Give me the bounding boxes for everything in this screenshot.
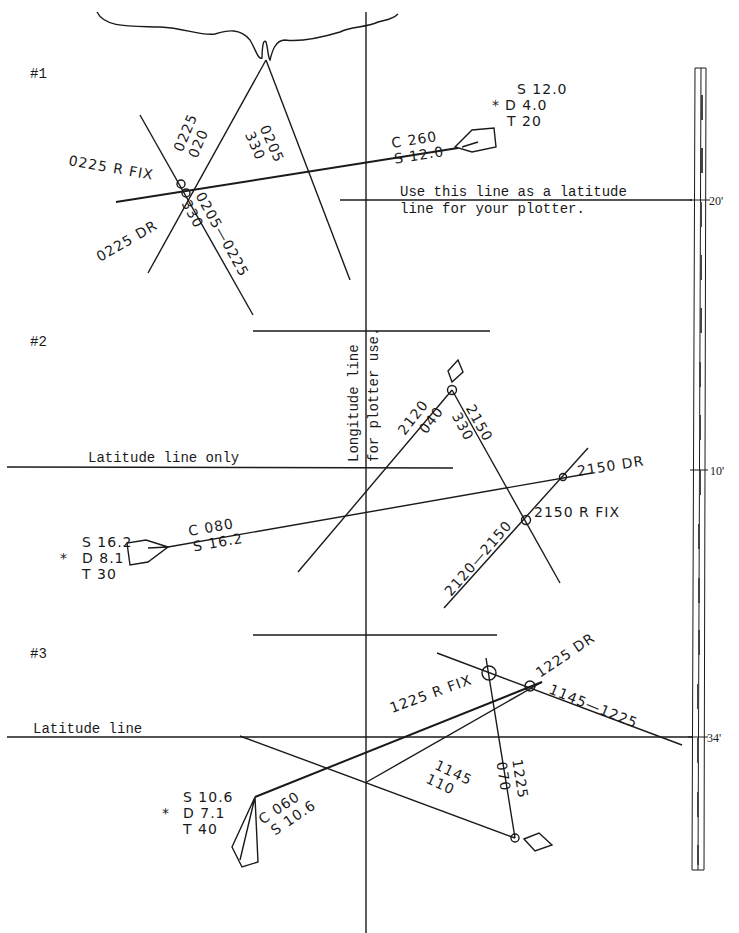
dr-label-2: 2150 DR <box>576 453 645 479</box>
svg-text:D 7.1: D 7.1 <box>183 805 226 821</box>
svg-text:*: * <box>162 805 170 821</box>
problem-2: #2 Latitude line only 2120040 2150330 21… <box>7 331 645 608</box>
latitude-note-1: Use this line as a latitude <box>400 184 627 200</box>
svg-text:T 30: T 30 <box>81 566 117 582</box>
svg-text:*: * <box>60 550 68 566</box>
svg-text:0205—0225: 0205—0225 <box>193 189 253 279</box>
svg-text:2120—2150: 2120—2150 <box>441 517 515 599</box>
svg-text:Longitude line: Longitude line <box>346 344 362 462</box>
svg-text:1145—1225: 1145—1225 <box>547 681 640 731</box>
svg-text:line for your plotter.: line for your plotter. <box>400 201 585 217</box>
latitude-note-3: Latitude line <box>33 721 142 737</box>
latitude-scale: 20' 10' 34' <box>688 68 724 870</box>
problem-3-label: #3 <box>30 646 47 662</box>
svg-text:for plotter use.: for plotter use. <box>366 328 382 462</box>
svg-text:S 16.2: S 16.2 <box>82 534 133 550</box>
scale-label-34: 34' <box>707 731 721 745</box>
dr-label-3: 1225 DR <box>533 629 598 680</box>
plotting-diagram: #1 0225020 0205330 0205—0225330 0225 R F… <box>0 0 739 933</box>
boat-icon-1 <box>455 128 496 152</box>
svg-text:S 10.6: S 10.6 <box>183 789 234 805</box>
boat-icon-2 <box>127 540 168 565</box>
fix-label-1: 0225 R FIX <box>67 152 155 183</box>
latitude-note-2: Latitude line only <box>88 450 239 466</box>
svg-text:D 8.1: D 8.1 <box>82 550 125 566</box>
svg-text:D 4.0: D 4.0 <box>505 97 548 113</box>
diamond-icon-3 <box>524 833 552 851</box>
longitude-note: Longitude line for plotter use. <box>346 328 382 462</box>
coastline <box>97 12 398 60</box>
svg-text:*: * <box>492 97 500 113</box>
problem-1-label: #1 <box>30 66 47 82</box>
scale-label-20: 20' <box>709 194 723 208</box>
svg-text:T 20: T 20 <box>506 113 542 129</box>
svg-text:T 40: T 40 <box>182 821 218 837</box>
problem-3: #3 Latitude line 1145110 1225070 1145—12… <box>7 629 692 867</box>
scale-label-10: 10' <box>710 464 724 478</box>
fix-label-2: 2150 R FIX <box>534 504 620 520</box>
fix-label-3: 1225 R FIX <box>388 671 474 715</box>
boat-icon-3 <box>232 797 258 867</box>
dr-label-1: 0225 DR <box>94 217 161 265</box>
diamond-icon-2 <box>448 360 463 382</box>
svg-text:070: 070 <box>494 761 514 793</box>
svg-text:S 12.0: S 12.0 <box>517 81 568 97</box>
problem-1: #1 0225020 0205330 0205—0225330 0225 R F… <box>30 60 692 315</box>
problem-2-label: #2 <box>30 334 47 350</box>
